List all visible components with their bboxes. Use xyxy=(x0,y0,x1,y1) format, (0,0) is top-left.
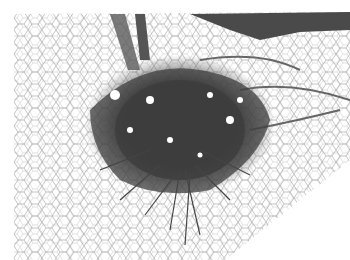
micrograph-image xyxy=(0,0,350,260)
histology-micrograph xyxy=(0,0,350,260)
